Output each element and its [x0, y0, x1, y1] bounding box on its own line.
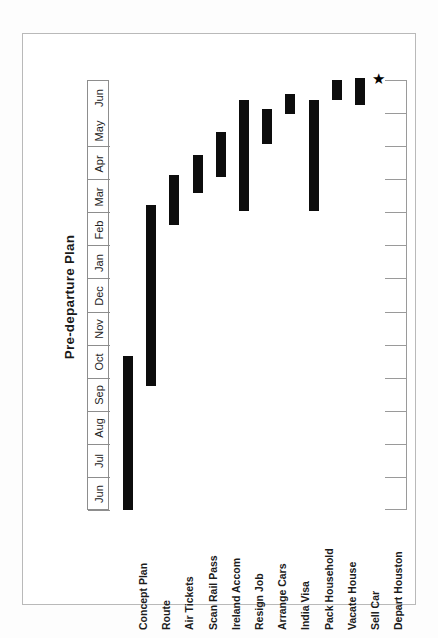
task-label: Concept Plan — [135, 510, 151, 630]
gantt-bar[interactable] — [239, 100, 249, 211]
chart-page: Pre-departure Plan JunJulAugSepOctNovDec… — [0, 0, 438, 638]
gantt-bar[interactable] — [193, 155, 203, 193]
month-tick-mar-9: Mar — [88, 180, 110, 213]
month-label: Jun — [88, 77, 110, 119]
task-label: Arrange Cars — [274, 510, 290, 630]
axis-tick — [385, 179, 407, 180]
axis-tick — [385, 245, 407, 246]
task-label: Sell Car — [367, 510, 383, 630]
month-tick-jun-12: Jun — [88, 81, 110, 114]
task-label: Ireland Accom — [228, 510, 244, 630]
month-axis: JunJulAugSepOctNovDecJanFebMarAprMayJun — [87, 80, 109, 510]
gantt-bar[interactable] — [332, 80, 342, 100]
month-tick-apr-10: Apr — [88, 147, 110, 180]
gantt-bar[interactable] — [262, 109, 272, 145]
axis-tick — [385, 378, 407, 379]
task-label-group: Concept PlanRouteAir TicketsScan Rail Pa… — [109, 512, 413, 632]
task-label: Vacate House — [344, 510, 360, 630]
month-tick-oct-4: Oct — [88, 346, 110, 379]
axis-tick — [385, 80, 407, 81]
milestone-star-icon: ★ — [372, 71, 385, 86]
task-label: Route — [158, 510, 174, 630]
month-tick-may-11: May — [88, 114, 110, 147]
month-tick-feb-8: Feb — [88, 213, 110, 246]
plot-area: ★ — [109, 80, 413, 510]
axis-tick — [385, 477, 407, 478]
gantt-bar[interactable] — [216, 132, 226, 177]
gantt-bar[interactable] — [285, 94, 295, 114]
chart-frame: Pre-departure Plan JunJulAugSepOctNovDec… — [22, 33, 416, 605]
gantt-bar[interactable] — [355, 78, 365, 105]
task-label: Depart Houston — [390, 510, 406, 630]
month-tick-nov-5: Nov — [88, 313, 110, 346]
axis-tick — [385, 146, 407, 147]
task-label: India Visa — [297, 510, 313, 630]
page-title: Pre-departure Plan — [59, 217, 81, 377]
axis-tick — [385, 444, 407, 445]
task-label: Air Tickets — [181, 510, 197, 630]
gantt-bar[interactable] — [309, 100, 319, 211]
month-tick-sep-3: Sep — [88, 379, 110, 412]
right-axis-line — [406, 80, 407, 510]
axis-tick — [385, 212, 407, 213]
axis-tick — [385, 312, 407, 313]
month-tick-jun-0: Jun — [88, 478, 110, 511]
month-tick-jan-7: Jan — [88, 246, 110, 279]
axis-tick — [385, 411, 407, 412]
gantt-bar[interactable] — [123, 356, 133, 510]
axis-tick — [385, 345, 407, 346]
gantt-bar[interactable] — [146, 205, 156, 386]
task-label: Scan Rail Pass — [205, 510, 221, 630]
month-tick-aug-2: Aug — [88, 412, 110, 445]
axis-tick — [385, 113, 407, 114]
gantt-bar[interactable] — [169, 175, 179, 225]
task-label: Resign Job — [251, 510, 267, 630]
axis-tick — [385, 278, 407, 279]
month-tick-dec-6: Dec — [88, 279, 110, 312]
task-label: Pack Household — [321, 510, 337, 630]
month-tick-jul-1: Jul — [88, 445, 110, 478]
